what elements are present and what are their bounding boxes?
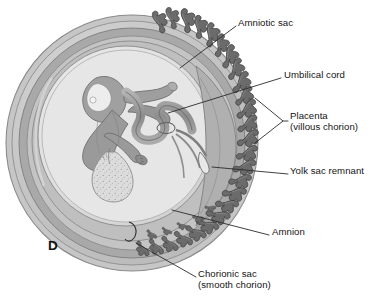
embryology-figure-d bbox=[0, 0, 392, 307]
panel-letter: D bbox=[48, 238, 58, 253]
label-amnion: Amnion bbox=[272, 226, 305, 237]
label-chorionic-sac: Chorionic sac (smooth chorion) bbox=[198, 268, 271, 291]
bracket-placenta bbox=[255, 98, 283, 143]
label-umbilical-cord: Umbilical cord bbox=[284, 69, 345, 80]
label-yolk-sac-remnant: Yolk sac remnant bbox=[290, 165, 364, 176]
label-placenta: Placenta (villous chorion) bbox=[290, 110, 358, 133]
label-amniotic-sac: Amniotic sac bbox=[238, 17, 293, 28]
